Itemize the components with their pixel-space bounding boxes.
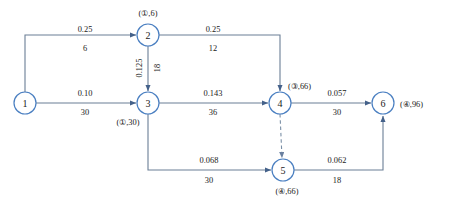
edge-4-to-5-dashed (280, 114, 282, 158)
node-6-annotation: (④,96) (400, 100, 423, 109)
edge-3-to-4: 0.143 36 (159, 89, 268, 117)
edge-1-to-2: 0.25 6 (25, 25, 136, 92)
edge-3-4-capacity: 36 (209, 108, 217, 117)
edge-3-5-capacity: 30 (205, 176, 213, 185)
node-4-annotation: (③,66) (288, 82, 311, 91)
node-5-annotation: (④,66) (275, 187, 298, 196)
node-2-annotation: (①,6) (139, 9, 158, 18)
edge-2-to-3: 0.125 18 (135, 46, 162, 91)
edge-4-to-6: 0.057 30 (291, 89, 371, 117)
node-3[interactable]: 3 (137, 92, 159, 114)
node-5-label: 5 (281, 165, 286, 176)
edge-1-3-capacity: 30 (81, 108, 89, 117)
edge-2-4-rate: 0.25 (206, 25, 221, 34)
diagram-canvas: 0.25 6 0.10 30 0.125 18 0.25 12 0.143 36 (0, 0, 449, 205)
edge-3-5-rate: 0.068 (200, 156, 219, 165)
edge-4-6-rate: 0.057 (328, 89, 347, 98)
edge-2-3-capacity: 18 (153, 64, 162, 72)
edge-3-4-rate: 0.143 (204, 89, 223, 98)
node-4[interactable]: 4 (269, 92, 291, 114)
edge-4-6-capacity: 30 (333, 108, 341, 117)
edge-3-to-5: 0.068 30 (148, 114, 271, 185)
edge-1-2-rate: 0.25 (78, 25, 93, 34)
node-1[interactable]: 1 (14, 92, 36, 114)
edge-2-to-4: 0.25 12 (159, 25, 280, 91)
edge-5-6-rate: 0.062 (328, 156, 347, 165)
edge-2-4-capacity: 12 (209, 44, 217, 53)
node-4-label: 4 (278, 98, 283, 109)
edge-1-to-3: 0.10 30 (36, 89, 136, 117)
node-6-label: 6 (381, 98, 386, 109)
edge-1-3-rate: 0.10 (78, 89, 93, 98)
node-3-annotation: (①,30) (116, 118, 139, 127)
node-6[interactable]: 6 (372, 92, 394, 114)
network-diagram: 0.25 6 0.10 30 0.125 18 0.25 12 0.143 36 (0, 0, 449, 205)
node-2-label: 2 (146, 30, 151, 41)
edge-5-to-6: 0.062 18 (294, 116, 383, 185)
edge-2-3-rate: 0.125 (135, 59, 144, 78)
node-5[interactable]: 5 (272, 159, 294, 181)
edge-1-2-capacity: 6 (83, 44, 87, 53)
edge-5-6-capacity: 18 (333, 176, 341, 185)
node-1-label: 1 (23, 98, 28, 109)
node-3-label: 3 (146, 98, 151, 109)
node-2[interactable]: 2 (137, 24, 159, 46)
